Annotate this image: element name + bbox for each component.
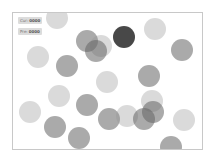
- circle-target[interactable]: [173, 109, 195, 131]
- circle-target[interactable]: [56, 55, 78, 77]
- circle-target[interactable]: [113, 26, 135, 48]
- circle-target[interactable]: [27, 46, 49, 68]
- circle-target[interactable]: [76, 94, 98, 116]
- previous-score-label: Pre:: [20, 29, 28, 34]
- previous-score-value: 0000: [29, 29, 40, 34]
- circle-target[interactable]: [144, 18, 166, 40]
- game-canvas[interactable]: Cur:0000 Pre:0000: [12, 12, 203, 150]
- current-score-value: 0000: [29, 18, 40, 23]
- circle-target[interactable]: [96, 71, 118, 93]
- previous-score-badge: Pre:0000: [18, 28, 42, 35]
- circle-target[interactable]: [133, 108, 155, 130]
- current-score-badge: Cur:0000: [18, 17, 42, 24]
- circle-target[interactable]: [85, 40, 107, 62]
- current-score-label: Cur:: [20, 18, 28, 23]
- circle-target[interactable]: [160, 136, 182, 150]
- circle-target[interactable]: [138, 65, 160, 87]
- circle-target[interactable]: [19, 101, 41, 123]
- circle-target[interactable]: [44, 116, 66, 138]
- circle-target[interactable]: [48, 85, 70, 107]
- circle-target[interactable]: [68, 127, 90, 149]
- circle-target[interactable]: [46, 12, 68, 29]
- circle-target[interactable]: [171, 39, 193, 61]
